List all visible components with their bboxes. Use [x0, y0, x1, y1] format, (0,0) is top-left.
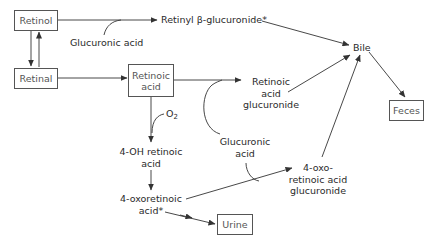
node-retinyl-glucuronide: Retinyl β-glucuronide*	[161, 14, 267, 26]
node-urine: Urine	[217, 214, 253, 235]
oxo-gluc-line3: glucuronide	[283, 185, 353, 197]
label-glucuronic-acid-top: Glucuronic acid	[70, 37, 143, 49]
pathway-arrows	[0, 0, 432, 250]
node-urine-label: Urine	[222, 219, 247, 230]
node-retinoic-acid: Retinoic acid	[128, 64, 174, 97]
oxo-gluc-line1: 4-oxo-	[283, 162, 353, 174]
ra-gluc-line2: acid	[236, 88, 306, 100]
node-retinoic-acid-glucuronide: Retinoic acid glucuronide	[236, 76, 306, 111]
oxo-gluc-line2: retinoic acid	[283, 174, 353, 186]
node-4-oxoretinoic-acid: 4-oxoretinoic acid*	[111, 193, 191, 216]
oh-ra-line2: acid	[111, 158, 191, 170]
oxo-ra-line2: acid*	[111, 205, 191, 217]
label-o2: O2	[166, 108, 178, 120]
label-glucuronic-acid-mid: Glucuronic acid	[215, 136, 275, 159]
o2-subscript: 2	[173, 113, 177, 121]
node-retinal-label: Retinal	[20, 73, 53, 84]
oh-ra-line1: 4-OH retinoic	[111, 146, 191, 158]
node-feces-label: Feces	[393, 105, 420, 116]
node-retinal: Retinal	[14, 68, 58, 89]
node-4-oh-retinoic-acid: 4-OH retinoic acid	[111, 146, 191, 169]
retinoid-metabolism-diagram: Retinol Retinal Retinoic acid Feces Urin…	[0, 0, 432, 250]
ra-gluc-line1: Retinoic	[236, 76, 306, 88]
ra-gluc-line3: glucuronide	[236, 99, 306, 111]
node-retinoic-acid-line2: acid	[141, 81, 161, 92]
node-retinoic-acid-line1: Retinoic	[132, 70, 170, 81]
node-4-oxo-retinoic-acid-glucuronide: 4-oxo- retinoic acid glucuronide	[283, 162, 353, 197]
node-feces: Feces	[389, 100, 424, 121]
node-bile: Bile	[353, 42, 371, 54]
oxo-ra-line1: 4-oxoretinoic	[111, 193, 191, 205]
gluc-mid-line2: acid	[215, 148, 275, 160]
node-retinol: Retinol	[14, 10, 58, 31]
gluc-mid-line1: Glucuronic	[215, 136, 275, 148]
node-retinol-label: Retinol	[20, 15, 53, 26]
